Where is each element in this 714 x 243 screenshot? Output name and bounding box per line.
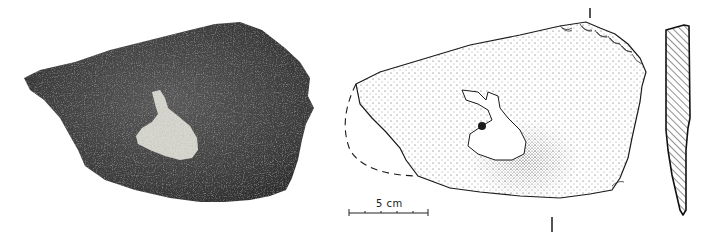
scale-bar-label: 5 cm <box>376 198 403 209</box>
artifact-cross-section <box>650 0 714 243</box>
artifact-photograph <box>0 0 340 243</box>
artifact-photo-image <box>0 0 340 243</box>
artifact-drawing: 5 cm <box>330 0 650 243</box>
cross-section-image <box>650 0 714 243</box>
inclusion-mark <box>478 122 486 130</box>
section-profile <box>666 25 690 215</box>
scale-bar <box>349 209 428 216</box>
